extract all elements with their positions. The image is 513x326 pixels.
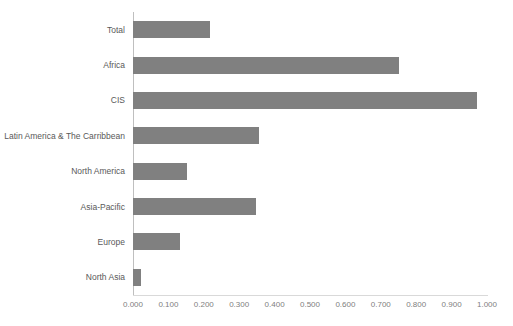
bar-row: Europe bbox=[133, 224, 487, 259]
category-label-latin-america-the-carribbean: Latin America & The Carribbean bbox=[0, 131, 131, 141]
bar-row: Africa bbox=[133, 47, 487, 82]
bar-row: Asia-Pacific bbox=[133, 189, 487, 224]
category-label-north-america: North America bbox=[0, 166, 131, 176]
x-axis-tick-labels: 0.0000.1000.2000.3000.4000.5000.6000.700… bbox=[133, 300, 487, 314]
bar-row: North Asia bbox=[133, 260, 487, 295]
bar-north-america[interactable] bbox=[133, 163, 187, 180]
bar-africa[interactable] bbox=[133, 57, 399, 74]
bar-row: Total bbox=[133, 12, 487, 47]
bar-row: Latin America & The Carribbean bbox=[133, 118, 487, 153]
bar-chart: TotalAfricaCISLatin America & The Carrib… bbox=[0, 0, 513, 326]
category-label-europe: Europe bbox=[0, 237, 131, 247]
category-label-total: Total bbox=[0, 25, 131, 35]
x-tick-label: 1.000 bbox=[457, 300, 513, 309]
bar-latin-america-the-carribbean[interactable] bbox=[133, 127, 259, 144]
bar-asia-pacific[interactable] bbox=[133, 198, 256, 215]
category-label-africa: Africa bbox=[0, 60, 131, 70]
bar-total[interactable] bbox=[133, 21, 210, 38]
category-label-north-asia: North Asia bbox=[0, 272, 131, 282]
bar-row: North America bbox=[133, 154, 487, 189]
bar-europe[interactable] bbox=[133, 233, 180, 250]
bar-cis[interactable] bbox=[133, 92, 477, 109]
category-label-cis: CIS bbox=[0, 95, 131, 105]
bar-north-asia[interactable] bbox=[133, 269, 141, 286]
plot-area: TotalAfricaCISLatin America & The Carrib… bbox=[133, 12, 487, 295]
bar-row: CIS bbox=[133, 83, 487, 118]
x-axis-line bbox=[133, 295, 488, 296]
category-label-asia-pacific: Asia-Pacific bbox=[0, 202, 131, 212]
